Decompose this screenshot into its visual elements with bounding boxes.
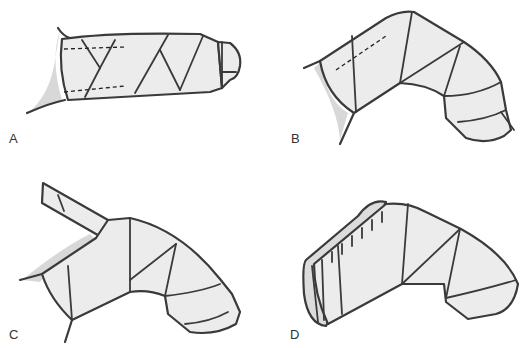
- bandaged-finger-flexed-illustration: [266, 0, 532, 174]
- panel-d: D: [266, 174, 532, 348]
- panel-label-d: D: [290, 327, 299, 342]
- panel-label-b: B: [291, 131, 300, 146]
- panel-label-a: A: [9, 131, 18, 146]
- panel-a: A: [0, 0, 266, 174]
- panel-label-c: C: [9, 327, 18, 342]
- panel-c: C: [0, 174, 266, 348]
- bandaged-finger-straight-illustration: [0, 0, 266, 174]
- bandaged-finger-tail-illustration: [0, 174, 266, 348]
- panel-b: B: [266, 0, 532, 174]
- bandaged-finger-trimmed-illustration: [266, 174, 532, 348]
